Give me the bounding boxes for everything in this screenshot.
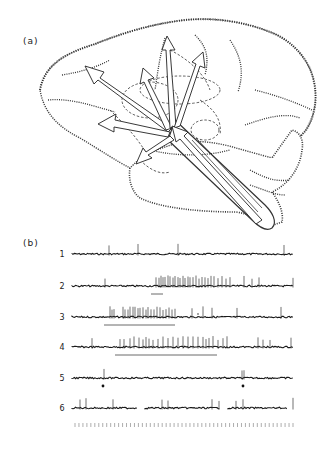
trace-row-5: 5 <box>59 369 292 387</box>
trace-row-label: 5 <box>59 374 64 383</box>
trace-row-6: 6 <box>59 398 293 413</box>
brain-illustration <box>40 19 316 229</box>
trace-baseline <box>72 253 293 255</box>
figure-canvas: 123456 <box>0 0 329 449</box>
marker-dot <box>242 385 245 388</box>
trace-row-2: 2 <box>59 275 293 294</box>
spike-traces: 123456 <box>59 244 293 413</box>
trace-row-4: 4 <box>59 336 292 355</box>
marker-dot <box>102 385 105 388</box>
trace-baseline <box>145 407 219 409</box>
trace-row-1: 1 <box>59 244 292 259</box>
trace-baseline <box>72 346 293 348</box>
trace-row-3: 3 <box>59 306 292 325</box>
marker-dot-small <box>197 313 199 315</box>
trace-row-label: 6 <box>59 404 64 413</box>
trace-baseline <box>228 407 287 409</box>
trace-row-label: 2 <box>59 282 64 291</box>
trace-baseline <box>72 316 293 318</box>
trace-baseline <box>72 377 293 379</box>
trace-baseline <box>72 407 137 409</box>
time-marker-row <box>75 423 293 427</box>
trace-row-label: 1 <box>59 250 64 259</box>
trace-row-label: 3 <box>59 313 64 322</box>
trace-row-label: 4 <box>59 343 64 352</box>
